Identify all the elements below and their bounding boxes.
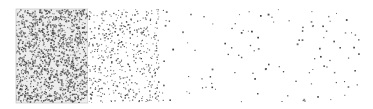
stipple-figure <box>0 0 373 109</box>
panel-sparse <box>160 9 360 103</box>
panels-group <box>16 9 360 103</box>
panel-medium <box>88 9 160 103</box>
panel-dense <box>16 9 88 103</box>
